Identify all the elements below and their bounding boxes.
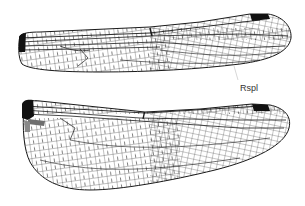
wing-venation-figure: Rspl xyxy=(0,0,305,206)
forewing-base-patch xyxy=(19,33,26,52)
hindwing xyxy=(0,95,305,206)
rspl-pointer xyxy=(234,66,238,80)
rspl-label: Rspl xyxy=(240,83,258,93)
hindwing-anal-patch xyxy=(24,120,30,132)
hindwing-pterostigma xyxy=(252,104,270,111)
forewing xyxy=(0,0,305,100)
hindwing-base-patch xyxy=(22,100,34,120)
